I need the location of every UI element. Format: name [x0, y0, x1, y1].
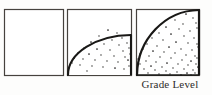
stipple-dot	[162, 39, 163, 40]
stipple-dot	[147, 72, 148, 73]
stipple-dot	[194, 72, 195, 73]
stipple-dot	[82, 58, 83, 59]
stipple-dot	[191, 49, 192, 50]
stipple-dot	[180, 74, 182, 76]
stipple-dot	[71, 62, 72, 63]
stipple-dot	[182, 23, 183, 24]
stipple-dot	[73, 57, 75, 59]
stipple-dot	[151, 37, 152, 38]
stipple-dot	[180, 48, 181, 49]
panel-partial-fill	[68, 10, 132, 76]
stipple-dot	[106, 60, 107, 61]
stipple-dot	[91, 65, 92, 66]
stipple-dot	[159, 56, 160, 57]
stipple-dot	[103, 43, 104, 44]
stipple-dot	[196, 43, 197, 44]
stipple-dot	[122, 50, 123, 51]
stipple-dot	[152, 50, 154, 52]
stipple-dot	[165, 70, 166, 71]
stipple-dot	[190, 60, 192, 62]
stipple-dot	[168, 46, 170, 48]
stipple-dot	[189, 30, 190, 31]
stipple-dot	[113, 55, 114, 56]
stipple-dot	[118, 44, 119, 45]
stipple-dot	[148, 55, 149, 56]
stipple-dot	[185, 54, 186, 55]
stipple-dot	[194, 55, 195, 56]
stipple-dot	[187, 64, 188, 65]
stipple-dot	[128, 47, 129, 48]
stipple-dot	[98, 35, 99, 36]
stipple-dot	[100, 54, 101, 55]
stipple-dot	[117, 61, 118, 62]
stipple-dot	[146, 43, 147, 44]
panel-full-fill	[137, 10, 200, 76]
stipple-dot	[139, 63, 140, 64]
stipple-dot	[96, 48, 98, 50]
stipple-dot	[114, 67, 116, 69]
stipple-dot	[83, 47, 84, 48]
stipple-dot	[94, 59, 95, 60]
stipple-dot	[111, 39, 112, 40]
stipple-dot	[158, 73, 159, 74]
stipple-dot	[155, 61, 156, 62]
stipple-dot	[127, 59, 129, 61]
stipple-dot	[121, 37, 122, 38]
stipple-dot	[186, 72, 188, 74]
stipple-dot	[79, 64, 80, 65]
stipple-dot	[161, 66, 162, 67]
stipple-dot	[190, 74, 191, 75]
stipple-dot	[196, 57, 197, 58]
stipple-dot	[90, 41, 92, 43]
stipple-dot	[143, 68, 144, 69]
stipple-dot	[88, 53, 90, 55]
stipple-dot	[166, 62, 168, 64]
stipple-dot	[181, 59, 182, 60]
stipple-dot	[193, 37, 194, 38]
stipple-dot	[183, 68, 184, 69]
stipple-dot	[169, 73, 170, 74]
stipple-dot	[158, 32, 159, 33]
stipple-dot	[170, 57, 171, 58]
stipple-dot	[156, 45, 157, 46]
stipple-dot	[107, 29, 109, 31]
stipple-dot	[192, 69, 193, 70]
stipple-dot	[145, 60, 146, 61]
stipple-dot	[172, 67, 173, 68]
stipple-dot	[124, 56, 125, 57]
figure-container: Grade Level	[0, 0, 212, 95]
stipple-dot	[154, 69, 155, 70]
stipple-dot	[187, 42, 188, 43]
stipple-dot	[142, 48, 143, 49]
stipple-dot	[195, 63, 196, 64]
stipple-dot	[175, 41, 177, 43]
stipple-dot	[116, 32, 117, 33]
stipple-dot	[170, 33, 172, 35]
stipple-dot	[77, 52, 78, 53]
stipple-dot	[128, 65, 129, 66]
stipple-dot	[177, 63, 178, 64]
stipple-dot	[123, 68, 124, 69]
stipple-dot	[129, 53, 130, 54]
stipple-dot	[197, 46, 198, 47]
stipple-dot	[139, 53, 141, 55]
stipple-dot	[137, 58, 138, 59]
stipple-dot	[150, 65, 152, 67]
stipple-dot	[174, 19, 175, 20]
stipple-dot	[109, 49, 110, 50]
stipple-dot	[185, 13, 187, 15]
stipple-dot	[183, 35, 184, 36]
stipple-dot	[178, 28, 179, 29]
panel-empty	[5, 10, 64, 76]
stipple-dot	[86, 70, 87, 71]
stipple-dot	[174, 52, 175, 53]
stipple-dot	[102, 66, 103, 67]
grade-level-caption: Grade Level	[128, 78, 212, 91]
stipple-dot	[163, 51, 164, 52]
stipple-dot	[197, 66, 199, 68]
stipple-dot	[176, 71, 177, 72]
stipple-dot	[192, 17, 193, 18]
stipple-dot	[165, 26, 167, 28]
stipple-dot	[196, 27, 197, 28]
stipple-dot	[195, 22, 196, 23]
